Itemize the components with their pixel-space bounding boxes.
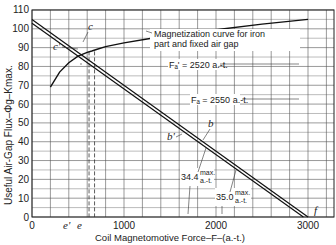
y-tick-label: 70: [18, 80, 30, 91]
point-f-label: f: [314, 204, 319, 216]
point-e-prime-label: e': [63, 219, 71, 231]
fa-prime-label: Fₐ' = 2520 a.-t.: [169, 60, 228, 70]
slope1-den: a.-t.: [200, 177, 212, 184]
y-axis-label: Useful Air-Gap Flux–Φg–Kmax.: [3, 65, 14, 205]
y-tick-label: 30: [18, 155, 30, 166]
fa-label: Fₐ = 2550 a.-t.: [191, 95, 248, 105]
x-axis-label: Coil Magnetomotive Force–F–(a.-t.): [95, 232, 245, 243]
mag-curve-label-2: part and fixed air gap: [154, 39, 239, 49]
x-tick-label: 2000: [205, 220, 228, 231]
point-b-prime-label: b': [167, 130, 176, 142]
point-c-label: c: [88, 20, 93, 32]
point-e-label: e: [77, 219, 82, 231]
x-tick-label: 0: [29, 220, 35, 231]
y-tick-label: 40: [18, 136, 30, 147]
slope2-value: 35.0: [216, 192, 234, 202]
x-tick-label: 1000: [113, 220, 136, 231]
slope2-num: max.: [235, 189, 250, 196]
y-tick-label: 10: [18, 193, 30, 204]
y-tick-label: 50: [18, 117, 30, 128]
y-tick-label: 110: [13, 4, 29, 15]
y-tick-label: 20: [18, 174, 30, 185]
load-line: [32, 23, 303, 217]
mag-curve-label-1: Magnetization curve for iron: [154, 29, 265, 39]
point-b-label: b: [208, 117, 214, 129]
point-c-prime-label: c': [53, 40, 61, 52]
slope2-den: a.-t.: [235, 197, 247, 204]
y-tick-label: 60: [18, 99, 30, 110]
y-tick-label: 100: [12, 23, 29, 34]
slope1-value: 34.4: [181, 172, 199, 182]
magnetization-chart: 01020304050607080901001100100020003000 U…: [0, 0, 336, 245]
slope1-num: max.: [200, 169, 215, 176]
x-tick-label: 3000: [297, 220, 320, 231]
annotation-arrows: [62, 31, 299, 214]
y-tick-label: 90: [18, 42, 30, 53]
y-tick-label: 80: [18, 61, 30, 72]
